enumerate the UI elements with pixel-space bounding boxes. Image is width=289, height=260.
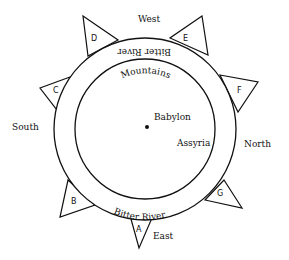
bitter-river-top-label: Bitter River xyxy=(117,47,171,57)
direction-north: North xyxy=(244,139,271,149)
assyria-label: Assyria xyxy=(176,138,211,148)
babylon-dot xyxy=(145,125,149,129)
direction-east: East xyxy=(153,231,174,241)
region-g-label: G xyxy=(217,189,223,198)
region-a-label: A xyxy=(136,225,142,234)
region-e-label: E xyxy=(183,34,188,43)
region-b-label: B xyxy=(71,197,77,206)
direction-south: South xyxy=(12,122,39,132)
region-f-label: F xyxy=(237,86,242,95)
inner-ring-land xyxy=(75,59,215,199)
direction-west: West xyxy=(138,14,160,24)
region-c-label: C xyxy=(53,86,59,95)
world-map-diagram: Babylon Assyria Mountains Bitter River B… xyxy=(0,0,289,260)
region-a-triangle xyxy=(131,218,152,248)
babylon-label: Babylon xyxy=(154,112,191,122)
region-d-label: D xyxy=(91,34,97,43)
